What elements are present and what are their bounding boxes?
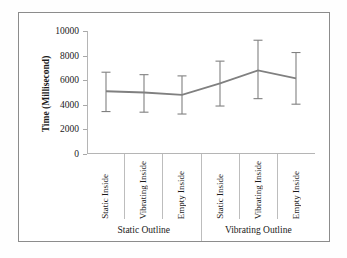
x-group-label: Static Outline xyxy=(117,225,170,235)
x-category-cell: Vibrating Inside xyxy=(239,154,277,219)
error-bars-group xyxy=(102,40,301,114)
error-bar xyxy=(254,40,263,98)
x-category-cell: Empty Inside xyxy=(162,154,200,219)
series-line xyxy=(106,70,296,95)
x-category-label-wrap: Vibrating Inside xyxy=(240,154,277,219)
x-category-label: Empty Inside xyxy=(177,170,186,219)
x-category-cell: Static Inside xyxy=(87,154,124,219)
chart-figure: Time (Millisecond) 020004000600080001000… xyxy=(0,0,347,258)
x-category-cell: Empty Inside xyxy=(277,154,315,219)
chart-plot-frame: Time (Millisecond) 020004000600080001000… xyxy=(18,12,330,242)
x-category-label-wrap: Empty Inside xyxy=(278,154,315,219)
y-tick-mark xyxy=(83,80,87,81)
x-category-label: Empty Inside xyxy=(292,170,301,219)
x-group-label: Vibrating Outline xyxy=(225,225,292,235)
x-category-label: Vibrating Inside xyxy=(254,160,263,219)
x-category-label-wrap: Static Inside xyxy=(87,154,124,219)
y-tick-mark xyxy=(83,154,87,155)
x-category-cell: Static Inside xyxy=(201,154,239,219)
y-tick-mark xyxy=(83,129,87,130)
x-category-label: Static Inside xyxy=(101,173,110,219)
y-tick-mark xyxy=(83,31,87,32)
x-category-label-wrap: Static Inside xyxy=(202,154,239,219)
y-tick-mark xyxy=(83,105,87,106)
x-group-cell: Vibrating Outline xyxy=(201,219,316,241)
x-category-label-wrap: Empty Inside xyxy=(163,154,200,219)
x-axis-group-band: Static OutlineVibrating Outline xyxy=(87,219,315,241)
x-category-label: Static Inside xyxy=(216,173,225,219)
x-category-label-wrap: Vibrating Inside xyxy=(125,154,162,219)
y-tick-mark xyxy=(83,56,87,57)
x-category-cell: Vibrating Inside xyxy=(124,154,162,219)
x-group-cell: Static Outline xyxy=(87,219,201,241)
x-category-label: Vibrating Inside xyxy=(139,160,148,219)
